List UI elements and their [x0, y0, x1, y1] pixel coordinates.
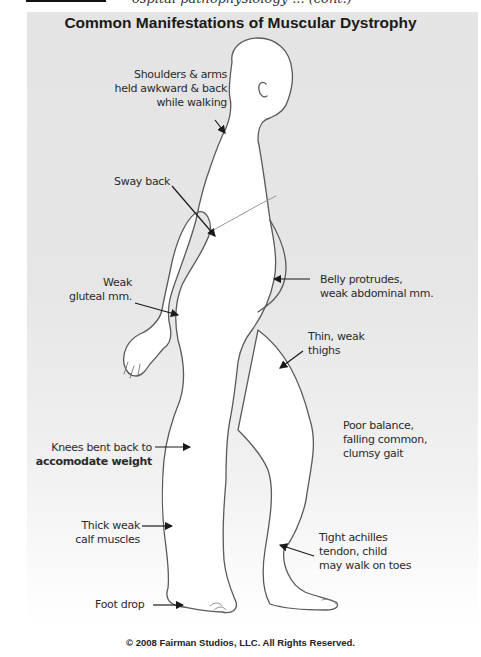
- label-calf: Thick weak calf muscles: [62, 519, 140, 547]
- label-foot-drop: Foot drop: [95, 598, 144, 612]
- copyright-notice: © 2008 Fairman Studios, LLC. All Rights …: [0, 637, 481, 648]
- label-thighs: Thin, weak thighs: [308, 330, 365, 358]
- arrow-achilles: [280, 545, 314, 556]
- label-balance: Poor balance, falling common, clumsy gai…: [343, 419, 427, 461]
- label-sway-back: Sway back: [114, 175, 170, 189]
- label-achilles: Tight achilles tendon, child may walk on…: [319, 531, 411, 573]
- arrow-shoulders: [215, 120, 225, 133]
- arrow-gluteal: [135, 303, 178, 315]
- label-gluteal: Weak gluteal mm.: [62, 276, 132, 304]
- label-knees: Knees bent back to accomodate weight: [30, 441, 152, 469]
- label-belly: Belly protrudes, weak abdominal mm.: [320, 273, 433, 301]
- label-shoulders: Shoulders & arms held awkward & back whi…: [112, 68, 227, 110]
